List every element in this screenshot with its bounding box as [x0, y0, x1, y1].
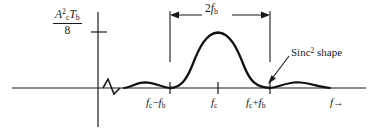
bandwidth-arrowhead-right: [261, 12, 270, 19]
y-axis-label-numerator: A2cTb: [53, 8, 82, 24]
main-lobe: [170, 33, 270, 89]
y-axis-label-denominator: 8: [53, 24, 82, 37]
y-axis-label: A2cTb 8: [53, 8, 82, 36]
sinc-pointer-line: [271, 56, 289, 80]
x-tick-label-fc-plus-fb: fc+fb: [246, 97, 265, 110]
side-lobe-right-outer: [270, 82, 330, 88]
spectrum-curve-group: [124, 33, 330, 89]
axis-break-symbol: [103, 79, 120, 94]
side-lobe-left-outer: [124, 82, 170, 88]
sinc-pointer-group: [268, 56, 289, 84]
sinc-pointer-arrowhead: [268, 75, 276, 84]
bandwidth-measure-group: [170, 7, 270, 62]
x-tick-label-fc-minus-fb: fc−fb: [146, 97, 165, 110]
x-tick-label-fc: fc: [211, 97, 217, 110]
sinc-shape-annotation: Sinc2 shape: [291, 47, 342, 58]
bandwidth-label: 2fb: [205, 3, 218, 16]
spectrum-figure: A2cTb 8 2fb Sinc2 shape fc−fb fc fc+fb f…: [0, 0, 375, 128]
x-axis-label: f→: [330, 97, 344, 108]
bandwidth-arrowhead-left: [170, 12, 179, 19]
